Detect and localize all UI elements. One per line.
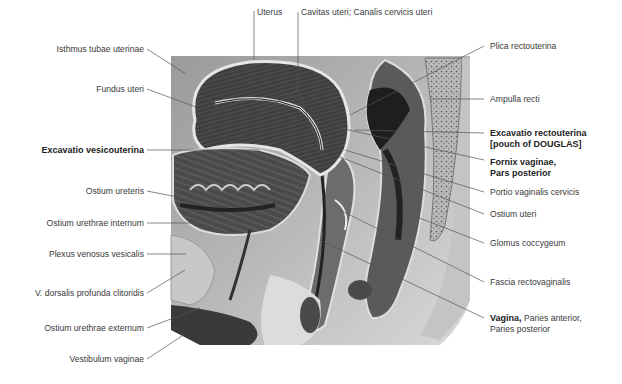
label-fornix-vaginae: Fornix vaginae, <box>490 157 556 167</box>
label-plica-rectouterina: Plica rectouterina <box>490 41 556 51</box>
label-ostium-urethrae-internum: Ostium urethrae internum <box>47 218 144 228</box>
label-ostium-uteri: Ostium uteri <box>490 209 536 219</box>
label-glomus-coccygeum: Glomus coccygeum <box>490 238 565 248</box>
sphincter-1 <box>300 297 320 333</box>
label-ostium-ureteris: Ostium ureteris <box>86 186 144 196</box>
sphincter-2 <box>348 280 372 300</box>
label-vagina: Vagina, Paries anterior, <box>490 313 582 323</box>
label-cavitas-uteri: Cavitas uteri; Canalis cervicis uteri <box>301 7 432 17</box>
label-v-dorsalis-profunda-clitoridis: V. dorsalis profunda clitoridis <box>35 288 144 298</box>
label-vagina-paries-anterior: Paries anterior, <box>522 313 582 323</box>
label-pouch-of-douglas: [pouch of DOUGLAS] <box>490 139 582 149</box>
label-pars-posterior: Pars posterior <box>490 168 551 178</box>
label-isthmus-tubae-uterinae: Isthmus tubae uterinae <box>57 44 144 54</box>
label-ostium-urethrae-externum: Ostium urethrae externum <box>44 323 144 333</box>
label-portio-vaginalis-cervicis: Portio vaginalis cervicis <box>490 187 579 197</box>
label-paries-posterior: Paries posterior <box>490 324 550 334</box>
label-excavatio-rectouterina: Excavatio rectouterina <box>490 128 587 138</box>
label-plexus-venosus-vesicalis: Plexus venosus vesicalis <box>49 249 144 259</box>
label-uterus: Uterus <box>257 7 282 17</box>
label-vagina-bold: Vagina, <box>490 313 522 323</box>
label-ampulla-recti: Ampulla recti <box>490 94 540 104</box>
label-fundus-uteri: Fundus uteri <box>96 84 144 94</box>
label-excavatio-vesicouterina: Excavatio vesicouterina <box>41 145 144 155</box>
label-fascia-rectovaginalis: Fascia rectovaginalis <box>490 277 570 287</box>
label-vestibulum-vaginae: Vestibulum vaginae <box>69 354 144 364</box>
